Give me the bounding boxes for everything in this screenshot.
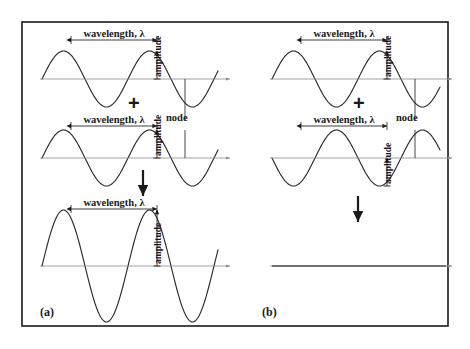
amplitude-span-b1-label: amplitude [384,36,394,77]
wavelength-span-a3-label: wavelength, λ [83,198,144,209]
amplitude-span-a1-label: amplitude [154,36,164,77]
amplitude-span-a3-label: amplitude [154,223,164,264]
plus-operator-a: + [128,93,140,113]
panel-label-b: (b) [262,306,277,318]
plus-operator-b: + [353,93,365,113]
wave-interference-figure: ++wavelength, λwavelength, λwavelength, … [0,0,470,349]
figure-canvas [0,0,470,349]
waves-layer [42,51,446,322]
amplitude-span-a2-label: amplitude [154,115,164,156]
wavelength-span-b2-label: wavelength, λ [313,115,374,126]
panel-label-a: (a) [40,306,54,318]
node-label-b: node [396,113,418,124]
wavelength-span-a2-label: wavelength, λ [83,115,144,126]
wavelength-span-b1-label: wavelength, λ [313,29,374,40]
wavelength-span-a1-label: wavelength, λ [83,29,144,40]
amplitude-span-b2-label: amplitude [384,143,394,184]
node-label-a: node [166,113,188,124]
